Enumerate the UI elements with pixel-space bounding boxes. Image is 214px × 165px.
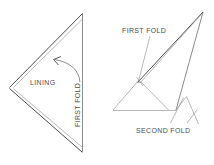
left-outer-edge-upper [10,14,83,88]
label-second-fold: SECOND FOLD [136,127,190,134]
diagram-canvas: LINING FIRST FOLD [0,0,214,165]
label-lining: LINING [30,79,55,86]
right-figure-group: FIRST FOLD SECOND FOLD [113,12,203,134]
label-first-fold-right: FIRST FOLD [122,27,166,34]
left-figure-group: LINING FIRST FOLD [10,13,83,153]
left-outer-edge-lower [10,89,83,153]
left-inner-edge-lower [14,89,83,147]
folding-diagram: LINING FIRST FOLD [0,0,214,165]
right-base-left-edge [113,80,139,110]
fold-direction-arrow [55,60,81,83]
label-first-fold-left: FIRST FOLD [74,83,81,127]
right-base-diagonal [140,81,169,111]
left-inner-edge-upper [14,20,83,88]
